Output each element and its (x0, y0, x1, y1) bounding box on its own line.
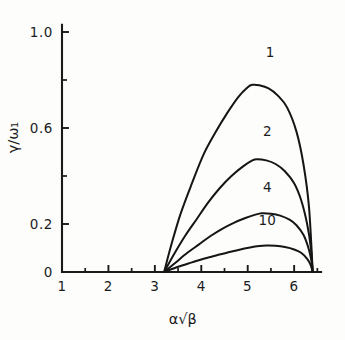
x-tick-label: 4 (197, 278, 206, 294)
x-tick-label: 5 (243, 278, 252, 294)
x-tick-label: 3 (150, 278, 159, 294)
y-axis-title: γ/ω₁ (5, 122, 21, 154)
x-axis-title: α√β (169, 311, 197, 327)
axis-spine (62, 25, 321, 272)
y-tick-label: 0.6 (30, 120, 53, 136)
line-chart: 12345600.20.61.0 12410 α√βγ/ω₁ (0, 0, 345, 340)
x-tick-label: 6 (290, 278, 299, 294)
curve-label-2: 2 (263, 123, 272, 139)
axis-ticks (62, 32, 317, 272)
axes (62, 25, 321, 272)
figure-container: 12345600.20.61.0 12410 α√βγ/ω₁ (0, 0, 345, 340)
curve-10 (164, 246, 313, 272)
x-tick-label: 2 (104, 278, 113, 294)
y-tick-label: 1.0 (30, 24, 53, 40)
data-curves (164, 85, 313, 272)
y-tick-label: 0.2 (30, 216, 53, 232)
curve-labels: 12410 (259, 44, 276, 228)
curve-2 (164, 159, 313, 272)
y-tick-label: 0 (44, 264, 53, 280)
curve-label-1: 1 (266, 44, 275, 60)
curve-label-4: 4 (263, 179, 272, 195)
curve-label-10: 10 (259, 212, 276, 228)
x-tick-label: 1 (57, 278, 66, 294)
